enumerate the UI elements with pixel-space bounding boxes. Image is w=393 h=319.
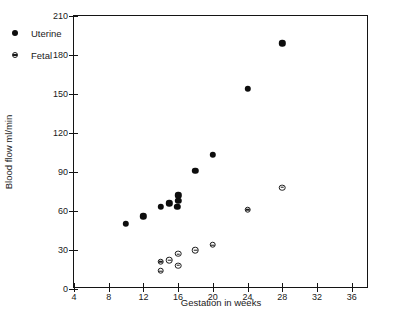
- x-axis-tick-inner: [143, 283, 144, 287]
- data-point-uterine: [140, 213, 146, 219]
- data-point-uterine: [158, 204, 164, 210]
- x-axis-tick-label: 12: [138, 293, 148, 302]
- legend-entry-label: Uterine: [31, 28, 62, 39]
- data-point-fetal: [279, 184, 286, 191]
- data-point-fetal: [166, 257, 173, 264]
- legend-marker-glyph: [12, 30, 18, 36]
- y-axis-tick-label: 30: [58, 246, 68, 255]
- data-point-fetal: [157, 268, 164, 275]
- x-axis-tick-label: 32: [312, 293, 322, 302]
- x-axis-tick-inner: [248, 283, 249, 287]
- legend-entry: Uterine: [8, 22, 118, 44]
- legend-entry-label: Fetal: [31, 50, 52, 61]
- x-axis-tick-label: 16: [173, 293, 183, 302]
- y-axis-tick-inner: [74, 94, 78, 95]
- data-point-uterine: [174, 204, 180, 210]
- x-axis-tick-label: 4: [71, 293, 76, 302]
- x-axis-tick-inner: [213, 283, 214, 287]
- data-point-uterine: [192, 167, 198, 173]
- x-axis-tick-inner: [109, 283, 110, 287]
- data-point-uterine: [123, 221, 129, 227]
- legend-entry: Fetal: [8, 44, 118, 66]
- data-point-uterine: [175, 197, 181, 203]
- x-axis-tick-inner: [282, 283, 283, 287]
- y-axis-tick-label: 0: [63, 285, 68, 294]
- x-axis-tick-inner: [352, 283, 353, 287]
- data-point-fetal: [157, 258, 164, 265]
- x-axis-tick-label: 24: [243, 293, 253, 302]
- data-point-fetal: [244, 206, 251, 213]
- x-axis-tick-label: 20: [208, 293, 218, 302]
- data-point-fetal: [175, 262, 182, 269]
- x-axis-tick-inner: [178, 283, 179, 287]
- x-axis-tick-label: 8: [106, 293, 111, 302]
- y-axis-tick-label: 60: [58, 207, 68, 216]
- legend-marker-glyph: [12, 52, 19, 59]
- data-point-fetal: [175, 251, 182, 258]
- y-axis-tick-label: 210: [53, 12, 68, 21]
- x-axis-tick-label: 36: [347, 293, 357, 302]
- data-point-uterine: [244, 86, 250, 92]
- y-axis-tick-inner: [74, 172, 78, 173]
- y-axis-tick-inner: [74, 250, 78, 251]
- legend-marker-uterine-icon: [8, 26, 22, 40]
- x-axis-tick-inner: [74, 283, 75, 287]
- data-point-uterine: [166, 200, 172, 206]
- y-axis-tick-inner: [74, 211, 78, 212]
- y-axis-tick-label: 90: [58, 168, 68, 177]
- data-point-fetal: [192, 247, 199, 254]
- y-axis-tick-label: 150: [53, 90, 68, 99]
- x-axis-tick-label: 28: [277, 293, 287, 302]
- chart-legend: UterineFetal: [8, 22, 118, 66]
- data-point-fetal: [210, 242, 217, 249]
- scatter-chart-figure: Blood flow ml/min Gestation in weeks 030…: [0, 0, 393, 319]
- y-axis-title: Blood flow ml/min: [3, 115, 14, 189]
- y-axis-tick-inner: [74, 16, 78, 17]
- legend-marker-fetal-icon: [8, 48, 22, 62]
- y-axis-tick-inner: [74, 133, 78, 134]
- data-point-uterine: [210, 152, 216, 158]
- y-axis-tick-label: 120: [53, 129, 68, 138]
- data-point-uterine: [279, 40, 285, 46]
- x-axis-tick-inner: [317, 283, 318, 287]
